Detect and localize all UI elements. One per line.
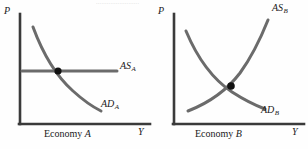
panel-economy-a: P Y ASA ADA Economy A [0,0,154,149]
panel-economy-b: P Y ASB ADB Economy B [154,0,308,149]
ad-curve-subscript-b: B [274,109,279,117]
panel-caption-a: Economy A [44,128,91,139]
as-curve-name-a: AS [120,60,131,71]
ad-curve-a [33,27,101,111]
panel-caption-b: Economy B [195,128,242,139]
ad-curve-label-a: ADA [101,98,119,111]
as-curve-b [188,20,268,111]
panel-caption-letter-a: A [85,128,91,139]
x-axis-label-b: Y [292,126,298,137]
ad-curve-name-a: AD [101,98,114,109]
panel-a-plot [0,0,154,149]
as-curve-label-a: ASA [120,60,136,73]
equilibrium-point-a [54,67,61,74]
x-axis-label-a: Y [138,126,144,137]
as-ad-figure: ........................ P Y ASA ADA Eco… [0,0,308,149]
as-curve-label-b: ASB [272,2,288,15]
panel-caption-letter-b: B [236,128,242,139]
panel-b-plot [154,0,308,149]
as-curve-subscript-a: A [131,65,136,73]
y-axis-label-a: P [4,5,10,16]
as-curve-subscript-b: B [283,7,288,15]
as-curve-name-b: AS [272,2,283,13]
ad-curve-subscript-a: A [114,103,119,111]
ad-curve-name-b: AD [261,104,274,115]
equilibrium-point-b [227,82,235,90]
panel-caption-prefix-a: Economy [44,128,85,139]
ad-curve-label-b: ADB [261,104,279,117]
panel-caption-prefix-b: Economy [195,128,236,139]
y-axis-label-b: P [158,5,164,16]
ad-curve-b [186,31,265,109]
